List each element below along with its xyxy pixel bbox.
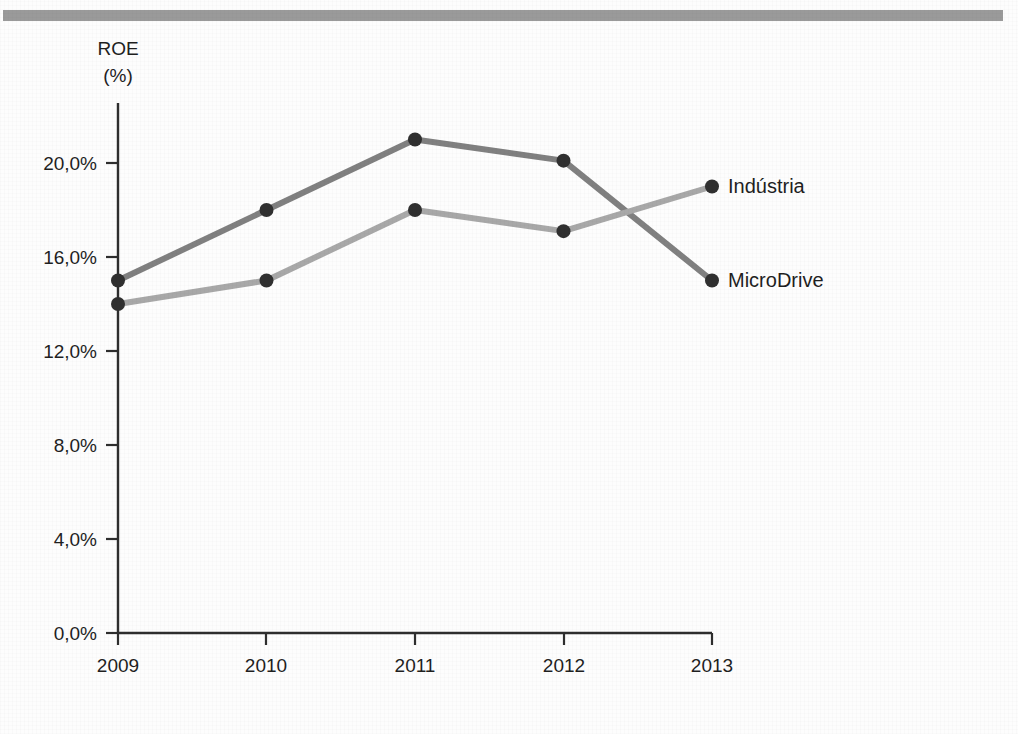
y-axis-title-line2: (%) bbox=[103, 65, 133, 86]
data-point-marker bbox=[705, 274, 719, 288]
y-axis-title-line1: ROE bbox=[97, 38, 138, 59]
y-tick-label-5: 20,0% bbox=[43, 153, 97, 174]
data-point-marker bbox=[111, 274, 125, 288]
y-tick-label-4: 16,0% bbox=[43, 247, 97, 268]
x-tick-label-2013: 2013 bbox=[691, 655, 733, 676]
series-layer bbox=[118, 140, 712, 305]
data-point-marker bbox=[408, 203, 422, 217]
data-point-marker bbox=[557, 224, 571, 238]
data-point-marker bbox=[705, 180, 719, 194]
y-tick-label-3: 12,0% bbox=[43, 341, 97, 362]
x-tick-label-2010: 2010 bbox=[245, 655, 287, 676]
y-tick-label-1: 4,0% bbox=[54, 529, 97, 550]
y-tick-label-2: 8,0% bbox=[54, 435, 97, 456]
data-point-marker bbox=[260, 203, 274, 217]
series-label-ind-stria: Indústria bbox=[728, 175, 806, 197]
chart-svg: ROE (%) 0,0% 4,0% 8,0% 12,0% 16,0% 20,0%… bbox=[0, 0, 1018, 734]
marker-layer bbox=[111, 133, 719, 312]
x-tick-label-2009: 2009 bbox=[97, 655, 139, 676]
roe-line-chart: ROE (%) 0,0% 4,0% 8,0% 12,0% 16,0% 20,0%… bbox=[0, 0, 1018, 734]
x-tick-label-2012: 2012 bbox=[543, 655, 585, 676]
series-label-layer: MicroDriveIndústria bbox=[728, 175, 824, 291]
data-point-marker bbox=[111, 297, 125, 311]
data-point-marker bbox=[557, 154, 571, 168]
data-point-marker bbox=[408, 133, 422, 147]
y-tick-label-0: 0,0% bbox=[54, 623, 97, 644]
x-axis-ticks: 2009 2010 2011 2012 2013 bbox=[97, 633, 733, 676]
y-axis-ticks: 0,0% 4,0% 8,0% 12,0% 16,0% 20,0% bbox=[43, 153, 118, 644]
x-tick-label-2011: 2011 bbox=[395, 655, 436, 676]
data-point-marker bbox=[260, 274, 274, 288]
series-label-microdrive: MicroDrive bbox=[728, 269, 824, 291]
